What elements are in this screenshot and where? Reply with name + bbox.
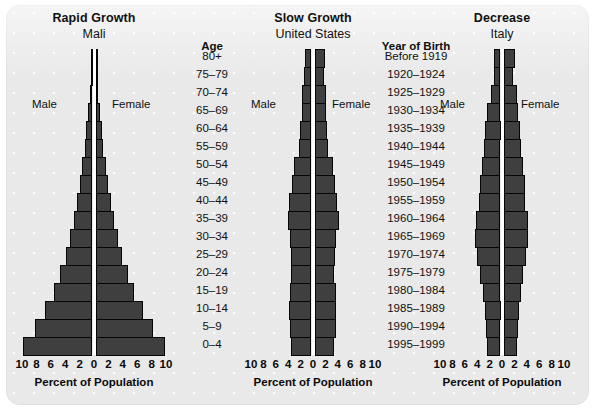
center-axis-line xyxy=(501,49,504,355)
x-axis-tick: 6 xyxy=(44,358,58,370)
age-label: 20–24 xyxy=(176,266,248,278)
bar-female xyxy=(504,157,523,176)
bar-male xyxy=(45,301,93,320)
age-label: 50–54 xyxy=(176,158,248,170)
x-axis-tick: 6 xyxy=(130,358,144,370)
chart-subtitle-mali: Mali xyxy=(14,27,174,41)
bar-male xyxy=(480,175,500,194)
bar-female xyxy=(315,247,335,266)
bar-male xyxy=(288,211,312,230)
bar-male xyxy=(486,319,500,338)
bar-female xyxy=(504,247,527,266)
x-axis-tick: 4 xyxy=(116,358,130,370)
bar-male xyxy=(290,283,312,302)
bar-female xyxy=(315,49,326,68)
age-label: 5–9 xyxy=(176,320,248,332)
bar-male xyxy=(70,229,92,248)
bar-female xyxy=(315,283,336,302)
bar-female xyxy=(315,229,337,248)
bar-female xyxy=(96,283,135,302)
bar-female xyxy=(315,301,337,320)
bar-female xyxy=(96,175,109,194)
bar-female xyxy=(315,319,336,338)
bar-male xyxy=(485,301,501,320)
bar-female xyxy=(315,103,326,122)
bar-male xyxy=(480,265,500,284)
age-label: 40–44 xyxy=(176,194,248,206)
bar-male xyxy=(35,319,93,338)
x-axis-title-italy: Percent of Population xyxy=(432,376,572,388)
bar-female xyxy=(504,103,519,122)
bar-female xyxy=(504,193,526,212)
bar-female xyxy=(96,319,154,338)
age-label: 80+ xyxy=(176,50,248,62)
bar-male xyxy=(300,121,311,140)
bar-female xyxy=(315,67,324,86)
bar-female xyxy=(504,139,521,158)
chart-subtitle-italy: Italy xyxy=(432,27,572,41)
center-axis-line xyxy=(93,49,96,355)
bar-male xyxy=(291,247,311,266)
bar-female xyxy=(96,103,100,122)
x-axis-tick: 4 xyxy=(58,358,72,370)
bar-male xyxy=(302,85,311,104)
bar-female xyxy=(504,85,517,104)
bar-male xyxy=(304,67,311,86)
bar-female xyxy=(315,211,339,230)
bar-female xyxy=(96,337,165,356)
age-label: 0–4 xyxy=(176,338,248,350)
bar-female xyxy=(96,67,98,86)
bar-female xyxy=(315,157,334,176)
age-label: 60–64 xyxy=(176,122,248,134)
bar-female xyxy=(96,229,118,248)
bar-male xyxy=(60,265,92,284)
x-axis-tick: 0 xyxy=(87,358,101,370)
x-axis-tick: 8 xyxy=(145,358,159,370)
bar-female xyxy=(504,301,520,320)
chart-subtitle-united-states: United States xyxy=(243,27,383,41)
bar-male xyxy=(54,283,93,302)
age-label: 10–14 xyxy=(176,302,248,314)
bar-male xyxy=(290,319,312,338)
bar-male xyxy=(23,337,92,356)
chart-title-united-states: Slow Growth xyxy=(243,11,383,25)
age-label: 75–79 xyxy=(176,68,248,80)
age-label: 45–49 xyxy=(176,176,248,188)
bar-female xyxy=(504,175,525,194)
age-label: 70–74 xyxy=(176,86,248,98)
bar-male xyxy=(477,247,501,266)
pyramid-bars-united-states xyxy=(243,49,383,355)
bar-male xyxy=(66,247,93,266)
bar-female xyxy=(504,229,529,248)
x-axis-title-united-states: Percent of Population xyxy=(243,376,383,388)
bar-female xyxy=(315,193,338,212)
bar-female xyxy=(96,247,123,266)
bar-male xyxy=(291,265,311,284)
bar-male xyxy=(491,85,501,104)
bar-male xyxy=(291,337,311,356)
age-label: 15–19 xyxy=(176,284,248,296)
x-axis-tick: 10 xyxy=(15,358,29,370)
pyramid-bars-mali xyxy=(14,49,174,355)
population-pyramid-figure: Rapid Growth Mali Male Female 1086420246… xyxy=(0,0,595,419)
bar-male xyxy=(479,193,500,212)
center-axis-line xyxy=(312,49,315,355)
bar-male xyxy=(292,175,312,194)
bar-male xyxy=(484,139,501,158)
x-axis-tick: 10 xyxy=(557,358,571,370)
bar-female xyxy=(504,337,518,356)
bar-female xyxy=(504,67,514,86)
bar-male xyxy=(77,193,93,212)
x-axis-title-mali: Percent of Population xyxy=(14,376,174,388)
bar-female xyxy=(504,265,524,284)
bar-male xyxy=(494,67,501,86)
bar-male xyxy=(476,211,500,230)
pyramid-bars-italy xyxy=(432,49,572,355)
bar-male xyxy=(482,157,501,176)
bar-female xyxy=(315,265,335,284)
age-label: 35–39 xyxy=(176,212,248,224)
chart-title-italy: Decrease xyxy=(432,11,572,25)
bar-male xyxy=(290,229,312,248)
age-label: 30–34 xyxy=(176,230,248,242)
bar-female xyxy=(315,85,326,104)
